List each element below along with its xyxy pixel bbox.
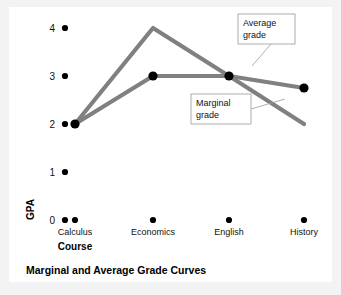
y-tick-label: 4 (49, 23, 55, 34)
y-tick-dot (62, 169, 68, 175)
y-tick-label: 1 (49, 167, 55, 178)
grade-curves-chart: 4 3 2 1 0 GPA (9, 7, 332, 282)
data-point-marker (224, 71, 233, 80)
y-axis-title: GPA (25, 199, 36, 220)
figure-panel: 4 3 2 1 0 GPA (9, 7, 332, 282)
y-tick-1: 1 (49, 167, 68, 178)
x-tick-dot (150, 217, 156, 223)
y-tick-label: 3 (49, 71, 55, 82)
marginal-grade-callout: Marginal grade (191, 94, 251, 124)
y-tick-2: 2 (49, 119, 68, 130)
x-tick-dot (226, 217, 232, 223)
y-tick-dot (62, 121, 68, 127)
x-tick-label: History (290, 227, 319, 237)
marginal-grade-callout-line2: grade (196, 110, 219, 120)
average-grade-callout-line1: Average (243, 18, 276, 28)
chart-title: Marginal and Average Grade Curves (26, 264, 206, 276)
x-tick-dot (72, 217, 78, 223)
figure-frame: 4 3 2 1 0 GPA (0, 0, 341, 295)
y-tick-dot (62, 25, 68, 31)
x-tick-label: Calculus (58, 227, 93, 237)
data-point-marker (70, 119, 79, 128)
x-category-english: English (214, 217, 244, 237)
y-tick-label: 0 (49, 215, 55, 226)
average-grade-leader-line (252, 44, 271, 66)
x-tick-label: English (214, 227, 244, 237)
average-grade-callout-line2: grade (243, 30, 266, 40)
data-point-marker (299, 83, 308, 92)
x-category-history: History (290, 217, 319, 237)
x-axis-title: Course (58, 241, 93, 252)
x-category-economics: Economics (131, 217, 176, 237)
y-tick-3: 3 (49, 71, 68, 82)
y-tick-dot (62, 217, 68, 223)
average-grade-callout: Average grade (238, 14, 295, 44)
data-point-marker (148, 71, 157, 80)
y-axis: 4 3 2 1 0 (49, 23, 68, 226)
x-axis: Calculus Economics English History (58, 217, 319, 237)
y-tick-0: 0 (49, 215, 68, 226)
y-tick-4: 4 (49, 23, 68, 34)
marginal-grade-callout-line1: Marginal (196, 98, 231, 108)
y-tick-dot (62, 73, 68, 79)
y-tick-label: 2 (49, 119, 55, 130)
x-tick-label: Economics (131, 227, 176, 237)
x-tick-dot (301, 217, 307, 223)
